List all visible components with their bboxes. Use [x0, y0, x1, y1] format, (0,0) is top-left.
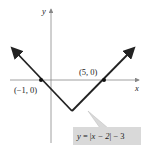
abs-value-graph: y x (−1, 0) (5, 0) y = |x − 2| − 3: [0, 0, 151, 156]
x-axis-label: x: [134, 83, 139, 93]
y-axis-label: y: [41, 6, 46, 16]
point-left-dot: [39, 78, 43, 82]
equation-text: y = |x − 2| − 3: [76, 131, 125, 141]
point-right-dot: [102, 78, 106, 82]
callout-pointer: [88, 111, 108, 128]
point-right-label: (5, 0): [79, 67, 98, 77]
point-left-label: (−1, 0): [14, 85, 37, 95]
